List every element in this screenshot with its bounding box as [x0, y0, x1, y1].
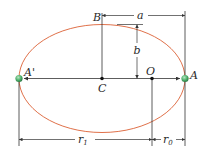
orbit-diagram: B a b A' C O A r1 r0: [0, 0, 204, 156]
orbit-svg: B a b A' C O A r1 r0: [0, 0, 204, 156]
label-b: b: [134, 44, 141, 57]
label-a-vertex: A: [189, 69, 198, 82]
apoapsis-planet: [15, 75, 22, 82]
label-o: O: [146, 65, 155, 78]
label-c: C: [98, 82, 107, 95]
label-a-prime: A': [23, 66, 35, 79]
label-a: a: [137, 9, 144, 22]
center-point: [100, 77, 104, 81]
label-b-vertex: B: [92, 11, 101, 24]
periapsis-planet: [181, 75, 188, 82]
